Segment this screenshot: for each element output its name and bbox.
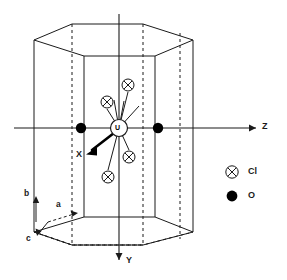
axis-x-arrowhead bbox=[86, 147, 97, 156]
atom-cl-lower-right bbox=[123, 151, 135, 163]
structure-drawing bbox=[0, 0, 287, 280]
crystal-structure-figure: U Z Y X b a c Cl O bbox=[0, 0, 287, 280]
axis-b-label: b bbox=[24, 189, 29, 198]
axis-a-label: a bbox=[56, 200, 61, 209]
axis-c-label: c bbox=[26, 234, 31, 243]
axis-y-label: Y bbox=[126, 256, 132, 265]
crystal-axes bbox=[36, 199, 74, 233]
atom-o-left bbox=[76, 123, 86, 133]
unit-cell-bottom-hidden bbox=[34, 232, 193, 245]
atom-o-right bbox=[153, 123, 163, 133]
axis-z-arrowhead bbox=[249, 125, 256, 132]
legend-o-label: O bbox=[248, 190, 255, 200]
legend-symbols bbox=[226, 166, 238, 202]
atom-u-label: U bbox=[115, 124, 120, 131]
unit-cell-hidden-edges bbox=[34, 24, 180, 245]
axis-x bbox=[92, 133, 114, 150]
axis-z-label: Z bbox=[262, 122, 268, 131]
legend-cl-icon bbox=[226, 166, 238, 178]
legend-cl-label: Cl bbox=[248, 166, 257, 176]
legend-o-icon bbox=[227, 191, 238, 202]
axis-y-arrowhead bbox=[116, 253, 123, 260]
atom-cl-upper-right bbox=[122, 79, 134, 91]
atom-cl-upper-left bbox=[101, 96, 113, 108]
axis-a-arrowhead bbox=[71, 211, 79, 217]
atom-cl-lower-left bbox=[102, 171, 114, 183]
axis-x-label: X bbox=[76, 150, 82, 159]
